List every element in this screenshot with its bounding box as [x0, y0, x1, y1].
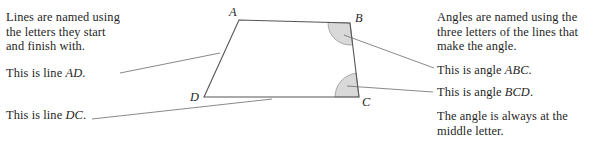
angle-marker-bcd — [335, 73, 359, 97]
angle-marker-abc — [328, 22, 353, 45]
leader-line-abc — [344, 35, 434, 68]
leader-line-bcd — [347, 86, 433, 92]
vertex-label-a: A — [229, 5, 237, 20]
leader-line-ad — [120, 53, 220, 73]
geometry-diagram-figure: Lines are named using the letters they s… — [0, 0, 598, 142]
vertex-label-c: C — [362, 95, 370, 110]
quadrilateral-figure — [0, 0, 598, 142]
vertex-label-d: D — [190, 90, 199, 105]
vertex-label-b: B — [355, 11, 363, 26]
leader-line-dc — [92, 99, 272, 119]
